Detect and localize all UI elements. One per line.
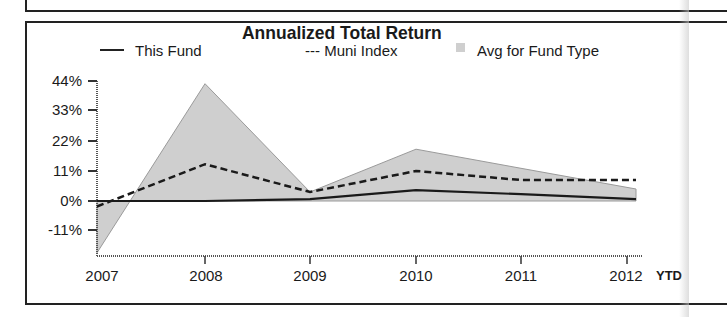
x-tick-label: 2008 (181, 267, 231, 284)
x-tick-label: 2009 (285, 267, 335, 284)
avg-fund-type-area (97, 84, 636, 253)
x-tick-label: 2012 (601, 267, 651, 284)
page-edge-shadow (679, 0, 689, 317)
x-tick-label: 2011 (496, 267, 546, 284)
x-tick-label: 2010 (391, 267, 441, 284)
x-tick-label: 2007 (77, 267, 127, 284)
